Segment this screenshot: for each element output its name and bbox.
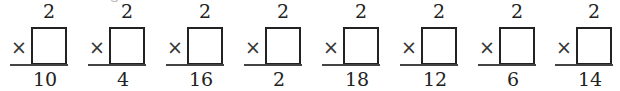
product-line [88,64,146,66]
times-sign: × [89,37,105,57]
times-sign: × [167,37,183,57]
answer-box[interactable] [109,27,145,65]
times-sign: × [401,37,417,57]
top-factor: 2 [188,1,222,21]
top-factor: 2 [577,1,611,21]
product: 4 [88,68,158,90]
product: 10 [10,68,80,90]
answer-box[interactable] [343,27,379,65]
top-factor: 2 [422,1,456,21]
top-factor: 2 [110,1,144,21]
answer-box[interactable] [576,27,612,65]
times-sign: × [323,37,339,57]
multiplication-problem-4: 2 × 2 [244,0,302,91]
multiplication-problem-8: 2 × 14 [555,0,613,91]
top-factor: 2 [266,1,300,21]
times-sign: × [245,37,261,57]
top-factor: 2 [344,1,378,21]
product-line [10,64,68,66]
product-line [400,64,458,66]
product-line [322,64,380,66]
product-line [478,64,536,66]
product-line [555,64,613,66]
top-factor: 2 [500,1,534,21]
multiplication-problem-1: 2 × 10 [10,0,68,91]
product: 2 [244,68,314,90]
multiplication-problem-6: 2 × 12 [400,0,458,91]
multiplication-problem-3: 2 × 16 [166,0,224,91]
multiplication-problem-5: 2 × 18 [322,0,380,91]
product: 12 [400,68,470,90]
top-factor: 2 [32,1,66,21]
product-line [166,64,224,66]
answer-box[interactable] [499,27,535,65]
product: 6 [478,68,548,90]
product: 16 [166,68,236,90]
product: 14 [555,68,620,90]
answer-box[interactable] [31,27,67,65]
product: 18 [322,68,392,90]
multiplication-problem-7: 2 × 6 [478,0,536,91]
times-sign: × [479,37,495,57]
times-sign: × [556,37,572,57]
answer-box[interactable] [421,27,457,65]
answer-box[interactable] [265,27,301,65]
times-sign: × [11,37,27,57]
product-line [244,64,302,66]
answer-box[interactable] [187,27,223,65]
multiplication-problem-2: 2 × 4 [88,0,146,91]
